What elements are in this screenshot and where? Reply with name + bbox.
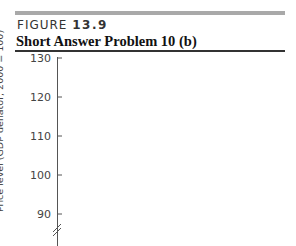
chart-plot: 13012011010090 [0, 0, 296, 246]
y-tick-label: 120 [30, 91, 51, 104]
y-tick-label: 110 [30, 130, 51, 143]
y-tick-label: 90 [37, 208, 51, 221]
y-tick-label: 130 [30, 52, 51, 65]
y-axis: 13012011010090 [30, 52, 62, 246]
y-tick-label: 100 [30, 169, 51, 182]
